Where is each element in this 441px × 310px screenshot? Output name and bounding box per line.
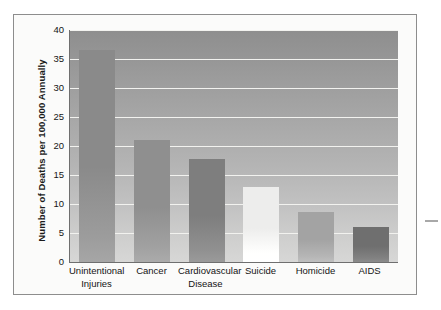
y-tick-label-10: 10	[38, 199, 64, 209]
x-label-line1: Homicide	[296, 265, 336, 276]
gridline-5	[70, 233, 398, 234]
x-axis-label-cardiovascular-disease: CardiovascularDisease	[178, 265, 233, 290]
gridline-15	[70, 175, 398, 176]
x-label-line1: Cardiovascular	[178, 265, 241, 276]
bar-cancer	[134, 140, 170, 262]
x-label-line1: Cancer	[136, 265, 167, 276]
y-tick-label-15: 15	[38, 170, 64, 180]
y-tick-label-40: 40	[38, 25, 64, 35]
gridline-10	[70, 204, 398, 205]
y-tick-label-35: 35	[38, 54, 64, 64]
y-tick-label-0: 0	[38, 257, 64, 267]
x-label-line1: AIDS	[358, 265, 380, 276]
x-axis-label-unintentional-injuries: UnintentionalInjuries	[69, 265, 124, 290]
bar-unintentional-injuries	[79, 50, 115, 262]
gridline-40	[70, 30, 398, 31]
plot-area	[69, 30, 398, 263]
x-axis-label-aids: AIDS	[342, 265, 397, 278]
x-label-line2: Disease	[178, 278, 233, 291]
bar-suicide	[243, 187, 279, 262]
y-axis-tick-labels: 4035302520151050	[38, 30, 64, 262]
gridline-25	[70, 117, 398, 118]
figure-root: Number of Deaths per 100,000 Annually 40…	[0, 0, 441, 310]
x-axis-tick-labels: UnintentionalInjuriesCancerCardiovascula…	[69, 265, 399, 299]
x-axis-label-suicide: Suicide	[233, 265, 288, 278]
gridline-20	[70, 146, 398, 147]
bar-cardiovascular-disease	[189, 159, 225, 262]
y-tick-label-25: 25	[38, 112, 64, 122]
x-label-line1: Suicide	[245, 265, 276, 276]
bar-aids	[353, 227, 389, 262]
y-tick-label-20: 20	[38, 141, 64, 151]
y-tick-label-30: 30	[38, 83, 64, 93]
x-axis-label-cancer: Cancer	[124, 265, 179, 278]
y-tick-label-5: 5	[38, 228, 64, 238]
x-axis-label-homicide: Homicide	[288, 265, 343, 278]
gridline-30	[70, 88, 398, 89]
x-label-line2: Injuries	[69, 278, 124, 291]
gridline-35	[70, 59, 398, 60]
edge-dash-mark	[425, 220, 438, 222]
x-label-line1: Unintentional	[69, 265, 124, 276]
gridline-0	[70, 262, 398, 263]
bar-homicide	[298, 212, 334, 262]
